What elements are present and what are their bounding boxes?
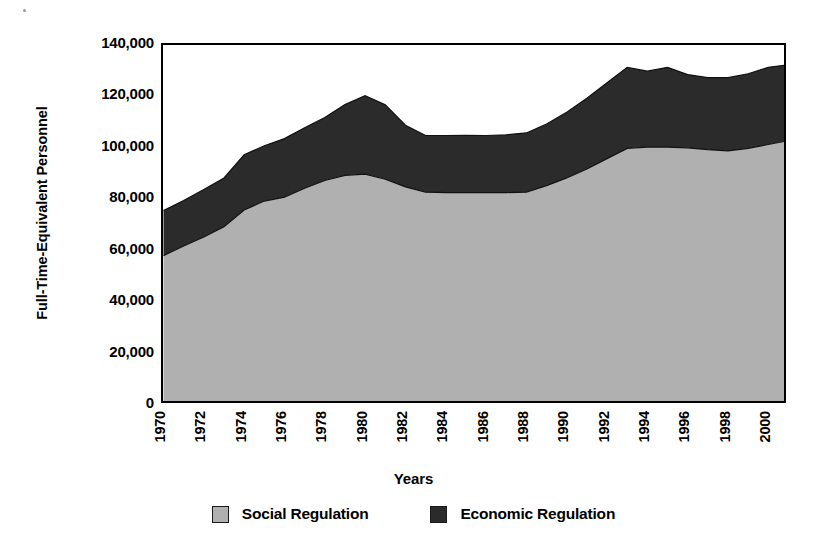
legend-swatch-economic-icon <box>430 506 447 523</box>
x-tick-label: 1988 <box>516 411 531 442</box>
x-tick-label: 1970 <box>153 411 168 442</box>
x-tick-label: 2000 <box>758 411 773 442</box>
x-tick-label: 1980 <box>355 411 370 442</box>
legend-item-economic: Economic Regulation <box>430 505 615 523</box>
x-tick-label: 1998 <box>718 411 733 442</box>
x-tick-label: 1984 <box>435 411 450 442</box>
x-tick-label: 1992 <box>597 411 612 442</box>
x-tick-label: 1978 <box>314 411 329 442</box>
chart-figure: Full-Time-Equivalent Personnel 140,00012… <box>0 0 827 552</box>
x-tick-label: 1994 <box>637 411 652 442</box>
legend-item-social: Social Regulation <box>212 505 369 523</box>
chart-legend: Social Regulation Economic Regulation <box>0 505 827 523</box>
x-tick-label: 1976 <box>274 411 289 442</box>
x-tick-label: 1990 <box>556 411 571 442</box>
x-tick-label: 1996 <box>677 411 692 442</box>
legend-swatch-social-icon <box>212 506 229 523</box>
legend-label-social: Social Regulation <box>242 505 369 523</box>
x-tick-label: 1982 <box>395 411 410 442</box>
x-tick-label: 1972 <box>193 411 208 442</box>
x-tick-label: 1986 <box>476 411 491 442</box>
x-tick-label: 1974 <box>234 411 249 442</box>
x-axis-title: Years <box>0 470 827 487</box>
legend-label-economic: Economic Regulation <box>460 505 615 523</box>
